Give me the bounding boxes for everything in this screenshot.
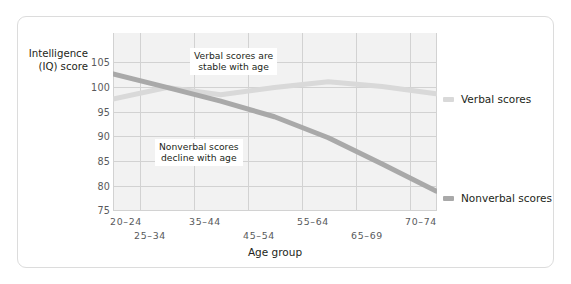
x-tick-label-45-54: 45–54 bbox=[229, 230, 289, 241]
legend-label-nonverbal: Nonverbal scores bbox=[461, 192, 552, 204]
x-tick-label-20-24: 20–24 bbox=[96, 216, 156, 227]
legend-label-verbal: Verbal scores bbox=[461, 93, 531, 105]
y-axis-title: Intelligence (IQ) score bbox=[20, 48, 88, 73]
y-tick-label-80: 80 bbox=[84, 181, 110, 192]
annotation-verbal-line2: stable with age bbox=[194, 61, 273, 72]
chart-figure: Intelligence (IQ) score 105 100 95 90 85… bbox=[0, 0, 571, 284]
annotation-nonverbal-line1: Nonverbal scores bbox=[159, 141, 239, 152]
legend-entry-nonverbal: Nonverbal scores bbox=[443, 192, 552, 204]
y-axis-title-line2: (IQ) score bbox=[20, 61, 88, 74]
legend-swatch-nonverbal-icon bbox=[443, 196, 454, 201]
x-tick-label-55-64: 55–64 bbox=[283, 216, 343, 227]
y-tick-label-90: 90 bbox=[84, 131, 110, 142]
y-tick-label-95: 95 bbox=[84, 107, 110, 118]
y-tick-label-75: 75 bbox=[84, 205, 110, 216]
annotation-verbal-scores: Verbal scores are stable with age bbox=[190, 48, 277, 75]
y-tick-label-100: 100 bbox=[84, 82, 110, 93]
annotation-nonverbal-scores: Nonverbal scores decline with age bbox=[155, 139, 243, 166]
y-axis-title-line1: Intelligence bbox=[20, 48, 88, 61]
legend-swatch-verbal-icon bbox=[443, 97, 454, 102]
annotation-nonverbal-line2: decline with age bbox=[159, 152, 239, 163]
y-tick-label-85: 85 bbox=[84, 156, 110, 167]
annotation-verbal-line1: Verbal scores are bbox=[194, 50, 273, 61]
y-tick-label-105: 105 bbox=[84, 57, 110, 68]
x-tick-label-70-74: 70–74 bbox=[391, 216, 451, 227]
x-tick-label-35-44: 35–44 bbox=[175, 216, 235, 227]
x-tick-label-25-34: 25–34 bbox=[120, 230, 180, 241]
x-tick-label-65-69: 65–69 bbox=[337, 230, 397, 241]
series-line-nonverbal bbox=[113, 74, 436, 191]
legend-entry-verbal: Verbal scores bbox=[443, 93, 531, 105]
x-axis-title: Age group bbox=[113, 246, 437, 258]
